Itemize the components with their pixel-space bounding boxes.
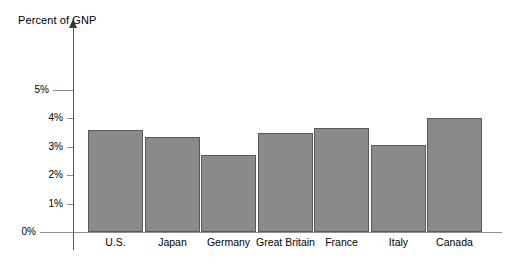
bar [145, 137, 200, 232]
bar [88, 130, 143, 232]
bar [314, 128, 369, 232]
x-axis-category-label: Canada [421, 236, 488, 248]
bar [258, 133, 313, 232]
bar [427, 118, 482, 232]
chart-canvas: Percent of GNP 5%4%3%2%1%0% U.S.JapanGer… [0, 0, 521, 272]
bar-series [0, 0, 521, 272]
bar [371, 145, 426, 232]
bar [201, 155, 256, 232]
